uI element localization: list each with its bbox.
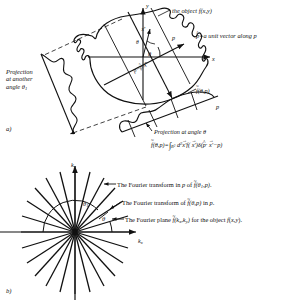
annotation-fourier-transform-in-p: The Fourier transform in p of f~(θ1,p).: [117, 181, 212, 189]
label-angle-theta-b: θ: [102, 215, 105, 223]
panel-b-axes: [0, 166, 136, 300]
figure-radon-fourier-slice: the object f(x,y) p^=a unit vector along…: [0, 0, 301, 304]
label-angle-theta1-b: θ1: [83, 200, 89, 208]
annotation-fourier-transform-of: The Fourier transform of f~(θ,p) in p.: [122, 199, 214, 206]
annotation-fourier-plane: The Fourier plane f~(kx,ky) for the obje…: [125, 216, 242, 224]
angle-arc-theta-b: [110, 222, 112, 232]
label-axis-ky: ky: [71, 161, 76, 169]
label-axis-kx: kx: [138, 237, 143, 245]
panel-b-graphics: [0, 0, 301, 304]
panel-b-label: b): [6, 287, 12, 295]
leader-ft-of: [110, 202, 121, 209]
